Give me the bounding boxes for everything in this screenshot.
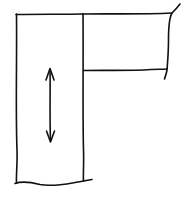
left-panel-right-edge (83, 14, 84, 181)
top-right-panel-right-edge (165, 4, 181, 79)
top-right-panel-top-edge (83, 13, 172, 14)
left-panel-bottom-edge (15, 180, 92, 186)
arrow-shaft (50, 70, 51, 140)
diagram-canvas (0, 0, 193, 206)
left-panel (15, 14, 92, 185)
sketch-svg (0, 0, 193, 206)
left-panel-left-edge (16, 14, 17, 183)
left-panel-top-edge (16, 14, 83, 15)
top-right-panel (83, 4, 180, 79)
top-right-panel-bottom-edge (84, 69, 168, 71)
vertical-double-arrow-icon (46, 69, 55, 143)
